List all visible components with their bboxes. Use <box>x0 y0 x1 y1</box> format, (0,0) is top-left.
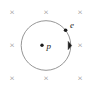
field-into-page-cross-icon: × <box>43 7 48 17</box>
electron-dot <box>64 28 68 32</box>
proton-label: p <box>46 41 52 51</box>
electron-label: e <box>70 20 74 30</box>
diagram-canvas: × × × × × × × × p e <box>0 0 96 89</box>
field-into-page-cross-icon: × <box>77 40 82 50</box>
field-into-page-cross-icon: × <box>77 73 82 83</box>
proton-dot <box>40 44 43 47</box>
field-into-page-cross-icon: × <box>77 7 82 17</box>
physics-diagram-figure: × × × × × × × × p e <box>0 0 96 89</box>
field-into-page-cross-icon: × <box>43 73 48 83</box>
field-into-page-cross-icon: × <box>9 73 14 83</box>
field-into-page-cross-icon: × <box>9 7 14 17</box>
field-into-page-cross-icon: × <box>9 40 14 50</box>
